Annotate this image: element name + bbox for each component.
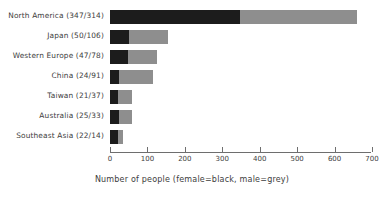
x-axis-tick xyxy=(297,147,298,152)
x-axis-tick xyxy=(185,147,186,152)
x-axis-tick-label: 400 xyxy=(253,156,266,163)
category-label: North America (347/314) xyxy=(0,12,104,19)
bar-segment-male xyxy=(118,90,132,104)
bar-segment-female xyxy=(110,110,119,124)
bar-segment-female xyxy=(110,30,129,44)
bar-row xyxy=(110,130,123,144)
bar-segment-female xyxy=(110,90,118,104)
bar-segment-male xyxy=(118,130,123,144)
bar-segment-male xyxy=(119,70,153,84)
bar-segment-male xyxy=(119,110,131,124)
x-axis-tick xyxy=(260,147,261,152)
x-axis-tick-label: 600 xyxy=(328,156,341,163)
x-axis-tick-label: 100 xyxy=(141,156,154,163)
bar-row xyxy=(110,110,132,124)
x-axis-tick-label: 700 xyxy=(365,156,378,163)
bar-segment-male xyxy=(128,50,157,64)
bar-row xyxy=(110,10,357,24)
bar-segment-female xyxy=(110,70,119,84)
x-axis-title: Number of people (female=black, male=gre… xyxy=(0,176,384,184)
bar-segment-male xyxy=(240,10,358,24)
bar-row xyxy=(110,70,153,84)
plot-area xyxy=(110,9,372,148)
x-axis-tick-label: 200 xyxy=(178,156,191,163)
x-axis-tick-label: 300 xyxy=(216,156,229,163)
bar-chart: North America (347/314) Japan (50/106) W… xyxy=(0,0,384,200)
bar-segment-male xyxy=(129,30,169,44)
category-label: Taiwan (21/37) xyxy=(0,92,104,99)
x-axis-tick xyxy=(147,147,148,152)
category-label: Australia (25/33) xyxy=(0,112,104,119)
x-axis-tick-label: 500 xyxy=(290,156,303,163)
bar-segment-female xyxy=(110,130,118,144)
x-axis-line xyxy=(110,152,371,153)
x-axis-tick xyxy=(110,147,111,152)
bar-segment-female xyxy=(110,10,240,24)
x-axis-tick xyxy=(372,147,373,152)
bar-row xyxy=(110,30,168,44)
x-axis-tick xyxy=(335,147,336,152)
category-label: Japan (50/106) xyxy=(0,32,104,39)
category-label: Western Europe (47/78) xyxy=(0,52,104,59)
x-axis-tick-label: 0 xyxy=(108,156,112,163)
category-label: China (24/91) xyxy=(0,72,104,79)
bar-segment-female xyxy=(110,50,128,64)
x-axis-tick xyxy=(222,147,223,152)
category-label: Southeast Asia (22/14) xyxy=(0,132,104,139)
bar-row xyxy=(110,50,157,64)
bar-row xyxy=(110,90,132,104)
